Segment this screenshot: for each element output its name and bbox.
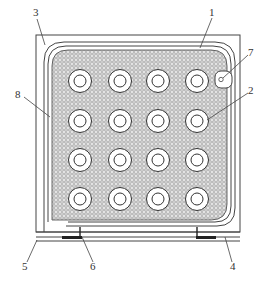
ring-hole: [186, 70, 209, 93]
label-4: 4: [230, 260, 236, 272]
ring-hole: [109, 110, 132, 133]
label-5: 5: [22, 260, 28, 272]
clip-part-7: [215, 71, 232, 88]
block-part-6: [62, 236, 82, 239]
block-part-4: [196, 236, 216, 239]
ring-hole: [69, 110, 92, 133]
label-7: 7: [248, 46, 254, 58]
ring-hole: [69, 188, 92, 211]
ring-hole: [147, 149, 170, 172]
ring-hole: [69, 149, 92, 172]
ring-hole: [147, 110, 170, 133]
bottom-rail: [36, 227, 240, 241]
ring-hole: [186, 188, 209, 211]
label-1: 1: [209, 6, 215, 18]
ring-hole: [109, 70, 132, 93]
label-3: 3: [33, 6, 39, 18]
ring-hole: [109, 149, 132, 172]
ring-hole: [109, 188, 132, 211]
ring-hole: [186, 149, 209, 172]
label-2: 2: [248, 84, 254, 96]
ring-hole: [186, 110, 209, 133]
ring-hole: [147, 70, 170, 93]
ring-hole: [69, 70, 92, 93]
label-8: 8: [15, 88, 21, 100]
label-6: 6: [90, 260, 96, 272]
diagram-canvas: 3 1 7 2 8 5 6 4: [0, 0, 271, 286]
ring-hole: [147, 188, 170, 211]
